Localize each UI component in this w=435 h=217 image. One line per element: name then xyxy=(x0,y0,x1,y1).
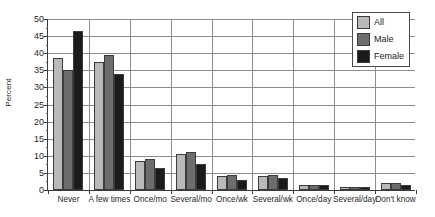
legend-item-label: Female xyxy=(374,52,404,61)
x-tick-mark xyxy=(416,190,417,194)
y-tick-label: 40 xyxy=(34,49,44,58)
y-tick-label: 30 xyxy=(34,83,44,92)
bar xyxy=(391,183,401,190)
bar-group xyxy=(130,19,171,190)
x-tick-mark xyxy=(252,190,253,194)
legend-item: Male xyxy=(357,33,404,46)
bar-group-bars xyxy=(171,19,212,190)
bar xyxy=(145,159,155,190)
x-tick-label: Once/wk xyxy=(216,195,248,204)
bar-group-bars xyxy=(293,19,334,190)
bar-group-bars xyxy=(48,19,89,190)
legend: AllMaleFemale xyxy=(352,12,410,67)
x-tick-mark xyxy=(171,190,172,194)
bar-group xyxy=(89,19,130,190)
x-tick-mark xyxy=(212,190,213,194)
bar-group xyxy=(171,19,212,190)
bar xyxy=(63,70,73,190)
bar-chart: Percent 05101520253035404550 NeverA few … xyxy=(0,0,435,217)
x-tick-mark xyxy=(375,190,376,194)
bar xyxy=(196,164,206,190)
legend-item-label: All xyxy=(374,18,384,27)
x-tick-label: Don't know xyxy=(375,195,415,204)
x-tick-mark xyxy=(130,190,131,194)
x-tick-mark xyxy=(293,190,294,194)
legend-item-label: Male xyxy=(374,35,394,44)
x-tick-label: Several/wk xyxy=(253,195,293,204)
bar-group-bars xyxy=(252,19,293,190)
bar-group xyxy=(293,19,334,190)
y-tick-label: 10 xyxy=(34,151,44,160)
bar xyxy=(186,152,196,190)
legend-swatch-icon xyxy=(357,50,370,63)
bar xyxy=(135,161,145,190)
x-tick-label: Once/mo xyxy=(134,195,167,204)
y-tick-label: 45 xyxy=(34,32,44,41)
bar xyxy=(227,175,237,190)
bar xyxy=(114,74,124,190)
bar xyxy=(350,187,360,190)
bar-group-bars xyxy=(89,19,130,190)
x-tick-mark xyxy=(89,190,90,194)
bar xyxy=(104,55,114,190)
x-tick-label: Once/day xyxy=(296,195,331,204)
bar xyxy=(309,185,319,190)
y-axis-title: Percent xyxy=(4,63,13,123)
y-tick-label: 35 xyxy=(34,66,44,75)
bar xyxy=(381,183,391,190)
y-tick-label: 15 xyxy=(34,134,44,143)
bar xyxy=(155,168,165,190)
axis-baseline xyxy=(48,190,415,191)
bar xyxy=(299,185,309,190)
bar-group xyxy=(212,19,253,190)
y-tick-label: 50 xyxy=(34,15,44,24)
x-tick-label: Several/mo xyxy=(170,195,211,204)
bar-group-bars xyxy=(130,19,171,190)
bar xyxy=(268,175,278,190)
y-tick-label: 20 xyxy=(34,117,44,126)
legend-item: Female xyxy=(357,50,404,63)
x-tick-mark xyxy=(334,190,335,194)
legend-swatch-icon xyxy=(357,33,370,46)
y-tick-label: 25 xyxy=(34,100,44,109)
bar-group xyxy=(252,19,293,190)
bar xyxy=(278,178,288,190)
bar xyxy=(340,187,350,190)
bar xyxy=(73,31,83,190)
x-tick-label: A few times xyxy=(88,195,130,204)
bar xyxy=(319,185,329,190)
x-tick-label: Several/day xyxy=(333,195,376,204)
bar xyxy=(360,187,370,190)
bar xyxy=(217,176,227,190)
x-tick-label: Never xyxy=(58,195,80,204)
legend-item: All xyxy=(357,16,404,29)
bar-group xyxy=(48,19,89,190)
bar xyxy=(237,180,247,190)
bar-group-bars xyxy=(212,19,253,190)
bar xyxy=(401,185,411,190)
x-tick-mark xyxy=(48,190,49,194)
bar xyxy=(176,154,186,190)
legend-swatch-icon xyxy=(357,16,370,29)
bar xyxy=(53,58,63,190)
bar xyxy=(258,176,268,190)
bar xyxy=(94,62,104,190)
